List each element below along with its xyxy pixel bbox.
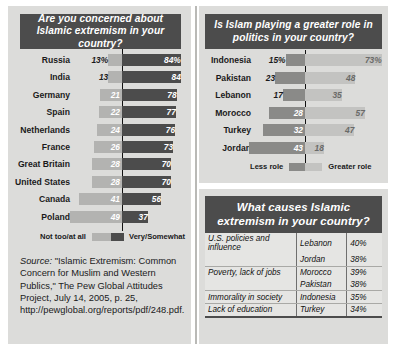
bar-left-value: 28	[267, 107, 306, 119]
table-cell-cause: Lack of education	[205, 303, 297, 316]
infographic-canvas: Are you concerned about Islamic extremis…	[0, 0, 396, 348]
bar-left-value: 43	[247, 142, 306, 154]
chart-row: Pakistan2348	[199, 72, 388, 85]
legend-swatch-less-role	[289, 163, 305, 171]
chart-row-label: United States	[15, 176, 70, 189]
table-cell-percent: 34%	[347, 303, 382, 316]
table-row: Lack of educationTurkey34%	[205, 303, 382, 316]
table-cell-country: Turkey	[297, 303, 347, 316]
causes-table: U.S. policies and influenceLebanon40%Jor…	[205, 233, 382, 318]
bar-right-value: 48	[305, 72, 358, 84]
bar-right-value: 35	[305, 89, 345, 101]
table-cell-cause: Immorality in society	[205, 291, 297, 304]
bar-left-value: 28	[90, 158, 123, 170]
bar-right-value: 84	[122, 71, 184, 83]
table-row: Pakistan38%	[205, 278, 382, 290]
bar-right-value: 78	[122, 89, 180, 101]
chart-row-label: Spain	[47, 106, 70, 119]
table-cell-cause	[205, 278, 297, 290]
chart-row: Morocco2857	[199, 107, 388, 120]
bar-left-value: 15%	[261, 54, 290, 66]
bar-left-value: 13	[84, 71, 112, 83]
chart-row-label: Canada	[39, 193, 70, 206]
right-legend-label-less: Less role	[250, 162, 283, 171]
bar-right-value: 57	[305, 107, 368, 119]
right-chart-legend: Less role Greater role	[250, 162, 371, 171]
bar-right-value: 70	[122, 158, 174, 170]
table-cell-percent: 40%	[347, 233, 382, 254]
left-chart-title-text: Are you concerned about Islamic extremis…	[20, 13, 181, 49]
chart-row: Germany2178	[8, 89, 191, 102]
left-chart-title: Are you concerned about Islamic extremis…	[20, 14, 181, 49]
chart-row: Lebanon1735	[199, 89, 388, 102]
chart-row-label: France	[42, 141, 70, 154]
chart-row: Turkey3247	[199, 124, 388, 137]
chart-row-label: Indonesia	[211, 54, 251, 67]
bar-right-value: 73%	[305, 54, 385, 66]
bar-left-value: 24	[95, 124, 123, 136]
table-cell-percent: 35%	[347, 291, 382, 304]
chart-row-label: Poland	[41, 211, 70, 224]
chart-row-label: Russia	[42, 54, 70, 67]
left-chart-legend: Not too/at all Very/Somewhat	[40, 232, 185, 241]
chart-row-label: Pakistan	[216, 72, 251, 85]
legend-swatch-dark	[111, 233, 124, 241]
chart-row: Russia13%84%	[8, 54, 191, 67]
chart-row-label: Morocco	[215, 107, 251, 120]
table-row: Jordan38%	[205, 254, 382, 266]
bar-right-value: 37	[122, 211, 151, 223]
chart-row: Canada4156	[8, 193, 191, 206]
bar-left-value: 13%	[84, 54, 112, 66]
chart-row: United States2870	[8, 176, 191, 189]
bar-right-value: 73	[122, 141, 176, 153]
chart-row: India1384	[8, 71, 191, 84]
chart-row-label: Lebanon	[215, 89, 251, 102]
chart-row: Netherlands2476	[8, 124, 191, 137]
chart-row: France2673	[8, 141, 191, 154]
bar-right-value: 76	[122, 124, 178, 136]
chart-row-label: Germany	[33, 89, 70, 102]
causes-table-title: What causes Islamic extremism in your co…	[205, 196, 382, 233]
chart-row-label: Netherlands	[20, 124, 70, 137]
bar-right-value: 77	[122, 106, 179, 118]
source-note: Source: "Islamic Extremism: Common Conce…	[20, 255, 188, 317]
right-chart-title-text: Is Islam playing a greater role in polit…	[205, 19, 382, 43]
left-legend-label-notconcerned: Not too/at all	[40, 232, 86, 241]
left-legend-label-concerned: Very/Somewhat	[129, 232, 185, 241]
bar-left-value: 22	[97, 106, 123, 118]
chart-row-label: Great Britain	[18, 158, 70, 171]
chart-row-label: India	[50, 71, 70, 84]
chart-row: Great Britain2870	[8, 158, 191, 171]
bar-left-value: 41	[77, 193, 123, 205]
table-cell-country: Jordan	[297, 254, 347, 266]
legend-swatch-greater-role	[305, 163, 322, 171]
table-cell-percent: 38%	[347, 278, 382, 290]
causes-table-title-text: What causes Islamic extremism in your co…	[205, 201, 382, 228]
bar-left-value: 23	[250, 72, 279, 84]
bar-left-value: 26	[92, 141, 123, 153]
left-bar-chart: Russia13%84%India1384Germany2178Spain227…	[8, 52, 191, 227]
bar-right-value: 47	[305, 124, 357, 136]
table-row: U.S. policies and influenceLebanon40%	[205, 233, 382, 254]
chart-row: Indonesia15%73%	[199, 54, 388, 67]
table-cell-cause: Poverty, lack of jobs	[205, 266, 297, 278]
chart-row-label: Turkey	[223, 124, 251, 137]
right-legend-label-greater: Greater role	[328, 162, 371, 171]
table-row: Poverty, lack of jobsMorocco39%	[205, 266, 382, 278]
bar-left-value: 32	[261, 124, 306, 136]
table-cell-country: Indonesia	[297, 291, 347, 304]
bar-right-value: 18	[305, 142, 327, 154]
legend-swatch-light	[92, 233, 111, 241]
chart-row: Jordan4318	[199, 142, 388, 155]
table-cell-percent: 38%	[347, 254, 382, 266]
bar-left-value: 21	[98, 89, 123, 101]
bar-left	[275, 72, 305, 84]
bar-right-value: 70	[122, 176, 174, 188]
table-cell-percent: 39%	[347, 266, 382, 278]
right-bar-chart: Indonesia15%73%Pakistan2348Lebanon1735Mo…	[199, 52, 388, 162]
table-cell-cause	[205, 254, 297, 266]
bar-right-value: 56	[122, 193, 164, 205]
chart-row: Spain2277	[8, 106, 191, 119]
table-row: Immorality in societyIndonesia35%	[205, 291, 382, 304]
bar-left-value: 28	[90, 176, 123, 188]
